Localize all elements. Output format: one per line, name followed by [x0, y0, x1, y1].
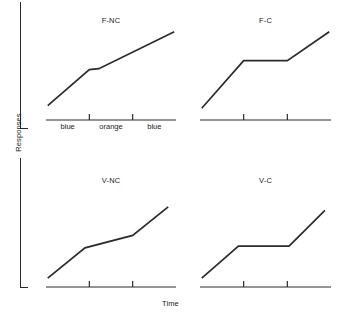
plot-area-f-nc: [46, 8, 176, 129]
panel-v-nc: V-NC: [46, 168, 176, 289]
panel-f-nc: F-NC blue orange blue: [46, 8, 176, 129]
data-line-f-nc: [48, 32, 175, 106]
plot-area-v-c: [200, 168, 331, 289]
y-axis-spine-row2: [20, 158, 21, 287]
x-axis-v-c: [200, 281, 331, 287]
x-axis-label: Time: [0, 299, 341, 308]
y-axis-foot-row2: [20, 287, 28, 288]
x-tick-label: blue: [46, 122, 89, 131]
plot-area-v-nc: [46, 168, 176, 289]
data-line-v-nc: [48, 207, 168, 278]
data-line-f-c: [202, 32, 330, 109]
x-axis-f-c: [200, 114, 331, 120]
x-axis-f-nc: [46, 114, 176, 120]
figure-root: Responses Time F-NC blue orange blue F-C: [0, 0, 341, 314]
plot-area-f-c: [200, 8, 331, 129]
x-tick-label: blue: [133, 122, 176, 131]
panel-f-c: F-C: [200, 8, 331, 129]
x-axis-v-nc: [46, 281, 176, 287]
data-line-v-c: [202, 210, 325, 278]
x-tick-labels-f-nc: blue orange blue: [46, 122, 176, 131]
y-axis-label: Responses: [14, 93, 23, 173]
x-tick-label: orange: [89, 122, 132, 131]
panel-v-c: V-C: [200, 168, 331, 289]
